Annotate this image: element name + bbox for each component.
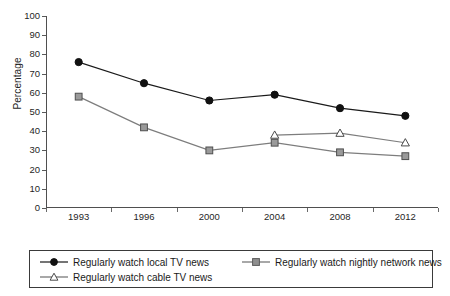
- x-tick-label: 1996: [114, 212, 174, 222]
- data-point-open-square: [337, 149, 344, 156]
- open-triangle-icon: [39, 271, 69, 283]
- data-point-open-square: [271, 139, 278, 146]
- data-point-filled-circle: [336, 105, 343, 112]
- data-point-open-square: [206, 147, 213, 154]
- y-tick-label: 0: [10, 203, 40, 213]
- y-tick-label: 90: [10, 30, 40, 40]
- y-tick-label: 80: [10, 49, 40, 59]
- series-overlay: [46, 16, 438, 208]
- x-tick-label: 1993: [49, 212, 109, 222]
- x-tick-mark: [307, 208, 308, 212]
- data-point-filled-circle: [140, 80, 147, 87]
- y-tick-label: 30: [10, 145, 40, 155]
- data-point-open-square: [75, 93, 82, 100]
- x-tick-mark: [242, 208, 243, 212]
- x-tick-mark: [46, 208, 47, 212]
- y-tick-label: 40: [10, 126, 40, 136]
- legend-item-label: Regularly watch cable TV news: [69, 272, 212, 283]
- x-tick-label: 2004: [245, 212, 305, 222]
- y-axis-title: Percentage: [12, 29, 23, 139]
- chart-legend: Regularly watch local TV news Regularly …: [29, 250, 433, 288]
- legend-item-cable-tv-news: Regularly watch cable TV news: [39, 270, 212, 284]
- legend-item-nightly-network-news: Regularly watch nightly network news: [241, 255, 442, 269]
- data-point-filled-circle: [206, 97, 213, 104]
- series-line: [79, 62, 406, 116]
- filled-circle-icon: [39, 256, 69, 268]
- plot-area: 1009080706050403020100 19931996200020042…: [46, 16, 438, 208]
- x-tick-label: 2000: [179, 212, 239, 222]
- data-point-open-square: [141, 124, 148, 131]
- x-tick-mark: [177, 208, 178, 212]
- y-tick-label: 70: [10, 69, 40, 79]
- x-tick-mark: [438, 208, 439, 212]
- data-point-filled-circle: [402, 112, 409, 119]
- x-tick-label: 2012: [375, 212, 435, 222]
- data-point-open-square: [402, 153, 409, 160]
- legend-item-label: Regularly watch nightly network news: [271, 257, 442, 268]
- data-point-filled-circle: [75, 58, 82, 65]
- y-tick-label: 20: [10, 165, 40, 175]
- legend-item-local-tv-news: Regularly watch local TV news: [39, 255, 209, 269]
- chart-figure: Percentage 1009080706050403020100 199319…: [0, 0, 450, 296]
- x-tick-mark: [111, 208, 112, 212]
- y-tick-label: 50: [10, 107, 40, 117]
- legend-item-label: Regularly watch local TV news: [69, 257, 209, 268]
- open-square-icon: [241, 256, 271, 268]
- data-point-filled-circle: [271, 91, 278, 98]
- x-tick-mark: [373, 208, 374, 212]
- y-tick-label: 10: [10, 184, 40, 194]
- y-tick-label: 100: [10, 11, 40, 21]
- y-tick-label: 60: [10, 88, 40, 98]
- x-tick-label: 2008: [310, 212, 370, 222]
- series-line: [79, 97, 406, 157]
